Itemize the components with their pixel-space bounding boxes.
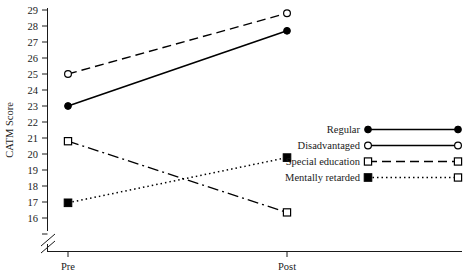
legend-marker-left bbox=[364, 158, 371, 165]
y-tick-label: 26 bbox=[28, 53, 39, 64]
y-axis-ticks bbox=[42, 10, 48, 234]
y-axis-title: CATM Score bbox=[4, 102, 15, 158]
series-disadvantaged bbox=[65, 10, 291, 78]
legend-item-regular[interactable]: Regular bbox=[327, 124, 462, 135]
legend-marker-right bbox=[454, 174, 461, 181]
data-point-marker bbox=[64, 199, 72, 207]
legend-label: Mentally retarded bbox=[285, 172, 361, 183]
y-tick-label: 19 bbox=[28, 165, 39, 176]
legend-label: Special education bbox=[286, 156, 361, 167]
y-tick-label: 17 bbox=[28, 197, 39, 208]
legend-item-mentally-retarded[interactable]: Mentally retarded bbox=[285, 172, 462, 183]
y-tick-label: 24 bbox=[28, 85, 39, 96]
legend: Regular Disadvantaged Special education bbox=[285, 124, 462, 183]
y-tick-label: 16 bbox=[28, 213, 39, 224]
data-point-marker bbox=[283, 209, 290, 216]
legend-item-disadvantaged[interactable]: Disadvantaged bbox=[298, 140, 462, 151]
legend-marker-left bbox=[365, 126, 372, 133]
chart-container: 29 28 27 26 25 24 23 22 21 20 19 18 17 1… bbox=[0, 0, 467, 276]
y-tick-label: 27 bbox=[28, 37, 39, 48]
legend-marker-right bbox=[455, 142, 462, 149]
legend-marker-right bbox=[455, 126, 462, 133]
y-tick-label: 29 bbox=[28, 5, 39, 16]
y-tick-label: 28 bbox=[28, 21, 39, 32]
x-tick-label-pre: Pre bbox=[61, 261, 75, 272]
series-mentally-retarded bbox=[64, 154, 291, 207]
data-point-marker bbox=[64, 138, 71, 145]
legend-marker-left bbox=[365, 142, 372, 149]
series-regular bbox=[65, 27, 291, 109]
x-axis-ticks bbox=[68, 252, 287, 258]
legend-label: Regular bbox=[327, 124, 361, 135]
y-tick-label: 21 bbox=[28, 133, 39, 144]
legend-marker-left bbox=[364, 174, 372, 182]
legend-item-special-education[interactable]: Special education bbox=[286, 156, 462, 167]
data-point-marker bbox=[284, 10, 291, 17]
data-point-marker bbox=[65, 71, 72, 78]
line-chart: 29 28 27 26 25 24 23 22 21 20 19 18 17 1… bbox=[0, 0, 467, 276]
legend-marker-right bbox=[454, 158, 461, 165]
series-special-education bbox=[64, 138, 290, 216]
y-tick-label: 18 bbox=[28, 181, 39, 192]
y-axis-tick-labels: 29 28 27 26 25 24 23 22 21 20 19 18 17 1… bbox=[28, 5, 39, 224]
y-tick-label: 22 bbox=[28, 117, 39, 128]
x-tick-label-post: Post bbox=[278, 261, 296, 272]
y-tick-label: 25 bbox=[28, 69, 39, 80]
legend-label: Disadvantaged bbox=[298, 140, 361, 151]
y-tick-label: 23 bbox=[28, 101, 39, 112]
data-point-marker bbox=[284, 27, 291, 34]
data-point-marker bbox=[65, 103, 72, 110]
y-tick-label: 20 bbox=[28, 149, 39, 160]
